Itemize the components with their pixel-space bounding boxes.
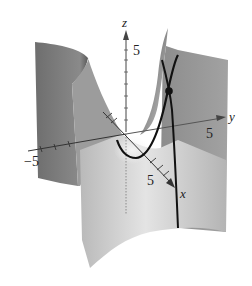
z-axis-label: z bbox=[121, 15, 127, 30]
intersection-point bbox=[165, 87, 173, 95]
surface-highlight bbox=[114, 136, 150, 164]
y-axis-label: y bbox=[227, 109, 235, 124]
x-tick-label: 5 bbox=[147, 173, 154, 188]
z-tick-label: 5 bbox=[133, 43, 140, 58]
y-tick-label: 5 bbox=[206, 126, 213, 141]
saddle-surface-figure: z 5 y 5 −5 x 5 bbox=[0, 0, 252, 286]
z-axis-arrow-icon bbox=[123, 30, 129, 40]
surface-front-panel bbox=[80, 134, 226, 268]
y-neg-tick-label: −5 bbox=[24, 154, 39, 169]
x-axis-label: x bbox=[179, 186, 186, 201]
